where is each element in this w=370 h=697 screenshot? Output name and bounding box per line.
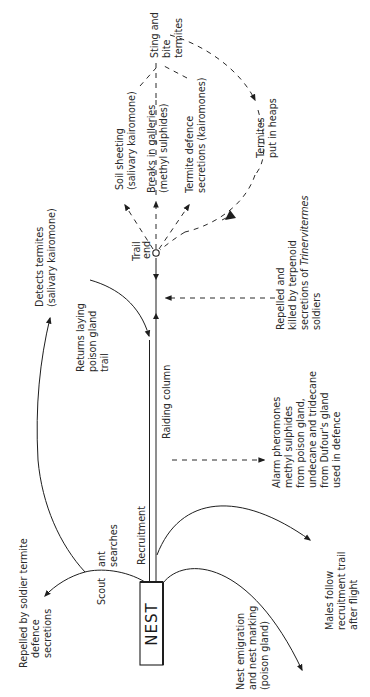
label-recruitment: Recruitment [136,506,147,565]
svg-text:Scout: Scout [96,578,107,605]
trail-end-marker [153,250,159,256]
svg-text:secretions (kairomones): secretions (kairomones) [196,78,207,193]
label-repelled-killed: Repelled and killed by terpenoid secreti… [275,196,322,330]
svg-text:Sting and: Sting and [149,12,160,58]
nest-label: NEST [143,602,161,645]
svg-text:Alarm pheromones: Alarm pheromones [271,397,282,488]
males-follow-curve [157,506,310,555]
label-nest-emigration: Nest emigration and nest marking (poison… [235,606,270,690]
nest-emigration-curve [163,569,302,670]
svg-text:termites: termites [173,18,184,58]
label-returns-laying: Returns laying poison gland trail [75,303,110,372]
svg-text:soldiers: soldiers [311,293,322,330]
svg-text:from Dufour's gland: from Dufour's gland [319,392,330,488]
svg-text:ant: ant [96,551,107,567]
svg-text:Raiding column: Raiding column [161,365,172,439]
trail-down-arrow-icon [153,274,159,280]
svg-text:Breaks in galleries: Breaks in galleries [146,105,157,193]
svg-text:methyl sulphides: methyl sulphides [283,406,294,488]
svg-text:Termites: Termites [255,117,266,159]
label-termites-heaps: Termites put in heaps [255,98,278,159]
label-males-follow: Males follow recruitment trail after fli… [324,552,359,630]
svg-text:Males follow: Males follow [324,571,335,630]
svg-text:Soil sheeting: Soil sheeting [114,128,125,190]
label-detects-termites: Detects termites (salivary kairomone) [34,208,57,307]
svg-text:poison gland: poison gland [87,311,98,372]
svg-text:(poison gland): (poison gland) [259,621,270,690]
svg-text:put in heaps: put in heaps [267,98,278,158]
svg-text:used in defence: used in defence [331,411,342,488]
svg-text:(salivary kairomone): (salivary kairomone) [126,91,137,190]
label-trail-end: Trail end [131,241,152,262]
svg-text:killed by terpenoid: killed by terpenoid [287,240,298,330]
label-termite-defence: Termite defence secretions (kairomones) [184,78,207,194]
svg-text:secretions of Trinervitermes: secretions of Trinervitermes [299,196,310,330]
svg-text:end: end [141,241,152,259]
svg-text:(methyl sulphides): (methyl sulphides) [158,103,169,193]
svg-text:recruitment trail: recruitment trail [336,552,347,630]
svg-text:Repelled by soldier termite: Repelled by soldier termite [18,538,29,668]
scout-up-curve [38,460,85,572]
svg-text:from poison gland,: from poison gland, [295,398,306,488]
label-raiding-column: Raiding column [161,365,172,439]
scout-search-curve [85,570,145,582]
svg-text:and nest marking: and nest marking [247,606,258,690]
label-soil-sheeting: Soil sheeting (salivary kairomone) [114,91,137,190]
returns-trail-curve [90,280,149,336]
svg-text:Recruitment: Recruitment [136,506,147,565]
repelled-soldier-curve [45,572,85,596]
svg-text:Detects termites: Detects termites [34,227,45,307]
nest-box: NEST [140,582,163,665]
svg-text:trail: trail [99,353,110,372]
svg-text:undecane and tridecane: undecane and tridecane [307,371,318,488]
svg-text:Nest emigration: Nest emigration [235,613,246,690]
label-sting-and-bite: Sting and bite termites [149,12,184,58]
svg-text:searches: searches [108,524,119,567]
svg-text:defence: defence [30,619,41,658]
detects-termites-curve [37,318,50,460]
label-repelled-soldier: Repelled by soldier termite defence secr… [18,538,53,668]
svg-text:after flight: after flight [348,579,359,630]
label-alarm-pheromones: Alarm pheromones methyl sulphides from p… [271,371,342,488]
ant-raiding-diagram: NEST [0,0,370,697]
svg-text:Repelled and: Repelled and [275,267,286,330]
svg-text:Termite defence: Termite defence [184,116,195,194]
svg-text:Returns laying: Returns laying [75,303,86,372]
recruitment-trail [150,258,157,582]
svg-text:secretions: secretions [42,609,53,658]
label-breaks-in-galleries: Breaks in galleries (methyl sulphides) [146,103,169,193]
termite-handling-loop [160,35,264,250]
svg-text:(salivary kairomone): (salivary kairomone) [46,208,57,307]
svg-text:bite: bite [161,39,172,58]
trail-up-arrow-icon [153,313,159,319]
label-scout-searches: Scout ant searches [96,524,119,605]
